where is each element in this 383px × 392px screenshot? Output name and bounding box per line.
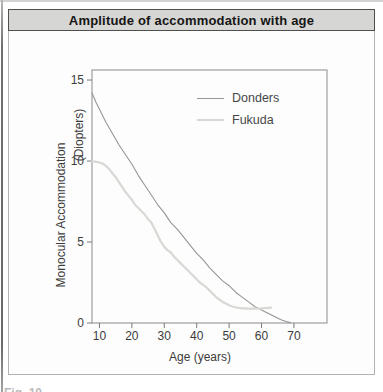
figure-title-bar: Amplitude of accommodation with age [8,9,375,31]
y-tick-label: 0 [77,316,84,330]
scan-edge-top [0,0,383,2]
chart-area: 10203040506070051015 Monocular Accommoda… [9,31,374,374]
figure-title: Amplitude of accommodation with age [69,13,314,28]
y-tick-label: 5 [77,235,84,249]
scanned-figure-page: Amplitude of accommodation with age 1020… [0,0,383,392]
x-tick-label: 60 [255,329,269,343]
figure-box: Amplitude of accommodation with age 1020… [8,9,375,375]
y-axis-label: Monocular Accommodation [54,115,70,315]
x-tick-label: 70 [287,329,301,343]
legend-line-swatch-donders [197,98,224,99]
figure-caption-clipped: Fig. 10 [4,386,42,392]
legend-line-swatch-fukuda [197,119,224,121]
x-tick-label: 30 [158,329,172,343]
x-tick-label: 50 [222,329,236,343]
legend-item-fukuda: Fukuda [197,109,279,131]
scan-edge-left [1,0,3,392]
x-axis-label: Age (years) [140,350,260,364]
legend-item-donders: Donders [197,87,279,109]
legend-label-fukuda: Fukuda [232,113,274,127]
y-axis-units-label: (Diopters) [72,75,88,195]
x-tick-label: 40 [190,329,204,343]
legend-label-donders: Donders [232,91,279,105]
x-tick-label: 10 [93,329,107,343]
x-tick-label: 20 [125,329,139,343]
legend: DondersFukuda [197,87,279,131]
